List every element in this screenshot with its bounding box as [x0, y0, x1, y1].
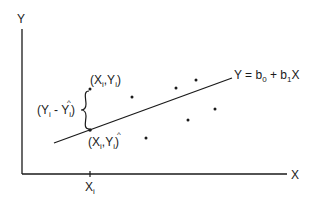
regression-equation: Y = b0 + b1X [234, 68, 299, 84]
obs-open: (X [90, 73, 102, 87]
data-point [131, 96, 134, 99]
x-tick-label-main: X [85, 180, 93, 194]
eq-mid: + b [267, 68, 288, 82]
res-open: (Y [37, 103, 49, 117]
observed-point-label: (Xi,Yi) [90, 73, 121, 89]
regression-diagram: Y X Xi Y = b0 + b1X (Xi,Yi) (Xi,Yi) ^ (Y… [0, 0, 316, 207]
residual-hat-symbol: ^ [67, 98, 71, 107]
scatter-points [88, 79, 216, 140]
res-close: ) [71, 103, 75, 117]
fitted-point-label: (Xi,Yi) [88, 135, 119, 151]
x-axis-label: X [291, 168, 299, 182]
obs-comma: ,Y [104, 73, 115, 87]
y-axis-label: Y [17, 12, 25, 26]
data-point [145, 137, 148, 140]
x-tick-label-sub: i [93, 187, 95, 196]
fit-hat-var: Y [105, 135, 113, 149]
eq-prefix: Y = b [234, 68, 262, 82]
observed-point [89, 88, 92, 91]
fitted-hat-symbol: ^ [117, 130, 121, 139]
residual-brace [81, 91, 89, 129]
data-point [195, 79, 198, 82]
regression-line [54, 78, 232, 143]
obs-close: ) [117, 73, 121, 87]
data-point [187, 119, 190, 122]
x-tick-label: Xi [85, 180, 95, 196]
data-point [175, 87, 178, 90]
res-minus: - [51, 103, 61, 117]
data-point [214, 108, 217, 111]
eq-suffix: X [291, 68, 299, 82]
fit-open: (X [88, 135, 100, 149]
